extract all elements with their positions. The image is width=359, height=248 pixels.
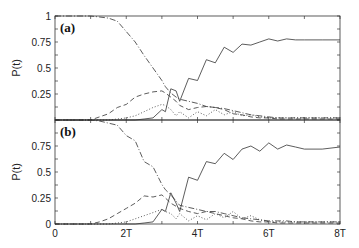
series-dashed <box>55 195 340 224</box>
y-tick-label: 1 <box>45 11 51 22</box>
y-tick-label: 0 <box>45 219 51 230</box>
series-solid <box>55 143 340 224</box>
y-axis-label: P(t) <box>10 163 22 181</box>
x-tick-label: 0 <box>52 228 58 239</box>
panel-b: 00.250.50.7502T4T6T8TP(t)(b) <box>10 120 346 239</box>
x-tick-label: 6T <box>263 228 275 239</box>
x-tick-label: 4T <box>192 228 204 239</box>
y-tick-label: 0.25 <box>32 89 52 100</box>
plot-frame <box>55 16 340 120</box>
plot-frame <box>55 120 340 224</box>
series-dash-dot <box>55 16 340 118</box>
y-tick-label: 0.75 <box>32 141 52 152</box>
y-axis-label: P(t) <box>10 59 22 77</box>
series-dashed <box>55 91 340 120</box>
series-dash-dot <box>55 120 340 222</box>
chart: 0.250.50.751P(t)(a) 00.250.50.7502T4T6T8… <box>0 0 359 248</box>
panel-a: 0.250.50.751P(t)(a) <box>10 11 340 121</box>
y-tick-label: 0.25 <box>32 193 52 204</box>
x-tick-label: 2T <box>120 228 132 239</box>
panel-label: (b) <box>60 124 76 139</box>
y-tick-label: 0.5 <box>37 63 51 74</box>
panel-label: (a) <box>60 20 75 35</box>
x-tick-label: 8T <box>334 228 346 239</box>
y-tick-label: 0.75 <box>32 37 52 48</box>
y-tick-label: 0.5 <box>37 167 51 178</box>
